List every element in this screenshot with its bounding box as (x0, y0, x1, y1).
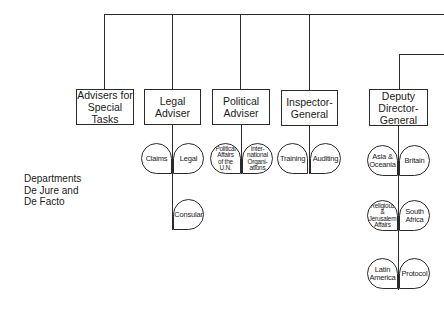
advisers-special-tasks-box: Advisers for Special Tasks (76, 89, 134, 125)
dept-britain: Britain (399, 145, 430, 176)
dept-auditing: Auditing (310, 143, 341, 174)
connector-deputy (399, 54, 400, 90)
dept-latin-america: Latin America (367, 258, 398, 289)
connector-inspector (309, 14, 310, 90)
dept-legal: Legal (173, 143, 204, 174)
dept-asia-oceania: Asia & Oceania (367, 145, 398, 176)
dept-training: Training (277, 143, 308, 174)
connector-legal (172, 14, 173, 89)
connector-political (240, 14, 241, 89)
dept-claims: Claims (141, 143, 172, 174)
dept-consular: Consular (173, 199, 204, 230)
departments-label: Departments De Jure and De Facto (24, 173, 81, 208)
dept-religious-jerusalem-affairs: Religious & Jerusalem Affairs (367, 200, 398, 231)
legal-adviser-box: Legal Adviser (144, 89, 201, 125)
political-adviser-box: Political Adviser (212, 89, 270, 125)
dept-protocol: Protocol (399, 258, 430, 289)
deputy-director-general-box: Deputy Director- General (369, 89, 428, 126)
connector-advisers (104, 14, 105, 89)
deputy-bus-line (399, 54, 444, 55)
top-bus-line (104, 14, 444, 15)
stem-deputy (398, 126, 399, 290)
dept-south-africa: South Africa (399, 200, 430, 231)
dept-political-affairs-un: Political Affairs of the U.N. (210, 143, 241, 174)
dept-international-organizations: Inter- national Organi- ations (242, 143, 273, 174)
inspector-general-box: Inspector- General (281, 90, 338, 126)
